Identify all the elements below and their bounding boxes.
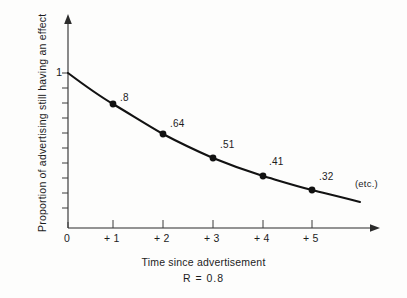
data-point-2 [160,131,167,138]
etc-note: (etc.) [355,178,378,189]
x-axis-tick-label-2: + 2 [154,232,170,244]
data-point-3 [210,155,217,162]
data-point-label-2: .64 [170,118,185,129]
y-axis-tick-label-1: 1 [56,66,62,78]
data-point-label-1: .8 [120,92,129,103]
x-axis-tick-label-4: + 4 [254,232,270,244]
x-axis-arrowhead-icon [370,224,380,232]
data-point-4 [260,173,267,180]
data-point-label-5: .32 [319,171,334,182]
x-axis-ticks [68,220,312,228]
decay-curve-path [68,73,360,202]
decay-rate-annotation: R = 0.8 [0,272,407,284]
x-axis-tick-label-3: + 3 [204,232,220,244]
x-axis-tick-label-5: + 5 [303,232,319,244]
y-axis-arrowhead-icon [64,14,72,24]
x-axis-tick-label-0: 0 [64,232,70,244]
data-point-5 [309,187,316,194]
decay-curve-chart [0,0,407,298]
y-axis-title: Proportion of advertising still having a… [36,14,48,232]
data-point-label-4: .41 [269,156,284,167]
data-point-markers [110,101,316,194]
x-axis-title: Time since advertisement [0,256,407,268]
figure-container: Proportion of advertising still having a… [0,0,407,298]
x-axis-tick-label-1: + 1 [104,232,120,244]
y-axis-ticks [62,73,68,208]
data-point-1 [110,101,117,108]
data-point-label-3: .51 [220,139,235,150]
